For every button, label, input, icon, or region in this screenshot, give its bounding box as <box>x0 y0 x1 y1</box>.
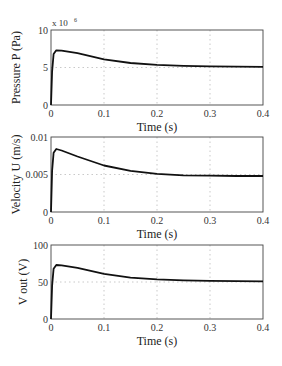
x-tick-label: 0.3 <box>204 215 217 226</box>
y-tick-label: 5 <box>43 62 48 73</box>
data-line <box>51 50 263 105</box>
x-tick-label: 0.1 <box>98 108 111 119</box>
y-tick-label: 100 <box>33 240 48 251</box>
x-tick-label: 0 <box>49 322 54 333</box>
subplot-2: 00.10.20.30.400.0050.01Time (s)Velocity … <box>9 132 269 242</box>
x-tick-label: 0 <box>49 215 54 226</box>
x-tick-label: 0.4 <box>257 322 270 333</box>
x-tick-label: 0.1 <box>98 322 111 333</box>
y-multiplier: x 10 <box>52 18 68 28</box>
x-tick-label: 0.4 <box>257 108 270 119</box>
x-axis-label: Time (s) <box>137 120 178 134</box>
x-tick-label: 0.2 <box>151 322 164 333</box>
subplot-1: 00.10.20.30.40510Time (s)Pressure P (Pa)… <box>9 17 269 134</box>
x-tick-label: 0.2 <box>151 108 164 119</box>
y-tick-label: 0 <box>43 207 48 218</box>
y-tick-label: 0.01 <box>31 132 49 143</box>
y-tick-label: 10 <box>38 25 48 36</box>
y-multiplier-exponent: 6 <box>74 17 77 23</box>
x-axis-label: Time (s) <box>137 334 178 348</box>
y-tick-label: 0 <box>43 314 48 325</box>
data-line <box>51 149 263 212</box>
x-tick-label: 0.3 <box>204 108 217 119</box>
y-tick-label: 50 <box>38 277 48 288</box>
x-axis-label: Time (s) <box>137 227 178 241</box>
y-tick-label: 0.005 <box>26 169 49 180</box>
x-tick-label: 0.1 <box>98 215 111 226</box>
y-axis-label: Velocity U (m/s) <box>9 135 23 215</box>
y-axis-label: Pressure P (Pa) <box>9 31 23 104</box>
y-tick-label: 0 <box>43 100 48 111</box>
x-tick-label: 0.2 <box>151 215 164 226</box>
x-tick-label: 0 <box>49 108 54 119</box>
x-tick-label: 0.3 <box>204 322 217 333</box>
x-tick-label: 0.4 <box>257 215 270 226</box>
y-axis-label: V out (V) <box>16 259 30 305</box>
subplot-3: 00.10.20.30.4050100Time (s)V out (V) <box>16 240 269 349</box>
figure: 00.10.20.30.40510Time (s)Pressure P (Pa)… <box>0 0 282 366</box>
